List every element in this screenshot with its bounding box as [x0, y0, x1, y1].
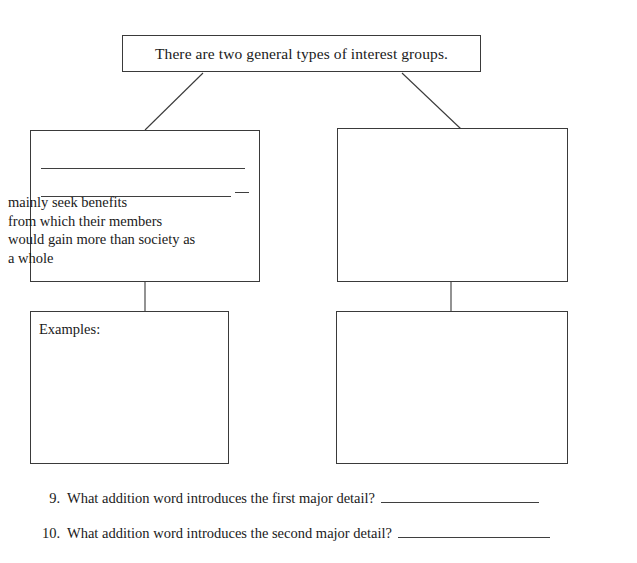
title-text: There are two general types of interest … — [155, 45, 448, 63]
body-line-1: mainly seek benefits — [8, 193, 230, 212]
body-line-2: from which their members — [8, 212, 230, 231]
connector-title-to-left-upper — [145, 73, 203, 130]
right-lower-box[interactable] — [336, 311, 568, 464]
question-row-10: 10. What addition word introduces the se… — [38, 524, 550, 542]
connector-title-to-right-upper — [402, 73, 461, 129]
body-line-3: would gain more than society as — [8, 230, 230, 249]
blank-rules-group — [39, 141, 249, 201]
question-10-answer-blank[interactable] — [398, 524, 550, 538]
question-10-number: 10. — [38, 525, 60, 542]
left-upper-box-body: mainly seek benefits from which their me… — [8, 193, 230, 267]
question-9-answer-blank[interactable] — [381, 489, 539, 503]
right-upper-box[interactable] — [337, 128, 568, 282]
blank-line-1[interactable] — [41, 168, 245, 169]
question-10-text: What addition word introduces the second… — [67, 525, 392, 542]
examples-label: Examples: — [39, 321, 100, 337]
body-line-4: a whole — [8, 249, 230, 268]
title-box: There are two general types of interest … — [122, 35, 481, 72]
left-lower-box-examples[interactable]: Examples: — [30, 311, 229, 464]
worksheet-page: There are two general types of interest … — [0, 0, 637, 563]
question-9-number: 9. — [44, 490, 60, 507]
question-row-9: 9. What addition word introduces the fir… — [44, 489, 539, 507]
question-9-text: What addition word introduces the first … — [67, 490, 375, 507]
blank-line-2-dash — [235, 192, 249, 193]
